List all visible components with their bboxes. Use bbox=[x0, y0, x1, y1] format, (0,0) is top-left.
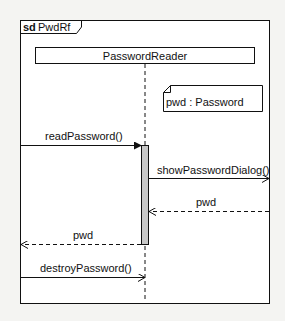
note: pwd : Password bbox=[164, 86, 263, 112]
note-text: pwd : Password bbox=[166, 96, 244, 108]
lifeline-label: PasswordReader bbox=[103, 50, 188, 62]
sequence-diagram: sd PwdRf PasswordReader pwd : Password r… bbox=[0, 0, 285, 321]
svg-text:pwd: pwd bbox=[73, 229, 93, 241]
svg-text:destroyPassword(): destroyPassword() bbox=[40, 262, 132, 274]
svg-text:readPassword(): readPassword() bbox=[45, 130, 123, 142]
svg-text:showPasswordDialog(): showPasswordDialog() bbox=[157, 164, 270, 176]
frame-keyword: sd bbox=[23, 21, 36, 33]
activation-bar bbox=[142, 146, 149, 245]
frame-name: PwdRf bbox=[38, 21, 71, 33]
svg-text:pwd: pwd bbox=[196, 196, 216, 208]
